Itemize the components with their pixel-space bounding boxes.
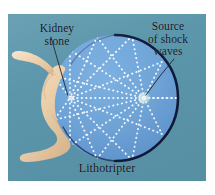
- label-kidney-stone-line1: Kidney: [24, 22, 90, 35]
- label-source-of-shock-waves: Source of shock waves: [136, 20, 200, 58]
- label-kidney-stone-line2: stone: [24, 35, 90, 48]
- label-lithotripter: Lithotripter: [8, 162, 206, 175]
- lithotripter-figure: Kidney stone Source of shock waves Litho…: [0, 0, 215, 195]
- diagram-panel: Kidney stone Source of shock waves Litho…: [8, 14, 206, 181]
- label-kidney-stone: Kidney stone: [24, 22, 90, 47]
- label-source-line1: Source: [136, 20, 200, 33]
- label-source-line3: waves: [136, 45, 200, 58]
- label-source-line2: of shock: [136, 33, 200, 46]
